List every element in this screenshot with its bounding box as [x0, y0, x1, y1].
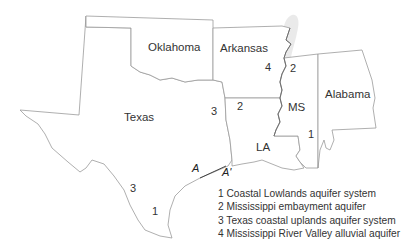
- aquifer-label-1-ms: 1: [308, 129, 314, 140]
- legend-item-4: 4 Mississippi River Valley alluvial aqui…: [218, 227, 400, 240]
- legend-item-3: 3 Texas coastal uplands aquifer system: [218, 214, 400, 227]
- section-label-a-prime: A': [222, 167, 231, 178]
- label-oklahoma: Oklahoma: [148, 42, 200, 54]
- aquifer-label-1-stx: 1: [152, 206, 158, 217]
- label-mississippi: MS: [288, 102, 305, 114]
- legend-item-2: 2 Mississippi embayment aquifer: [218, 200, 400, 213]
- aquifer-label-2-la: 2: [237, 101, 243, 112]
- aquifer-label-3-etx: 3: [211, 106, 217, 117]
- legend-item-1: 1 Coastal Lowlands aquifer system: [218, 187, 400, 200]
- aquifer-label-3-stx: 3: [130, 183, 136, 194]
- legend: 1 Coastal Lowlands aquifer system 2 Miss…: [218, 187, 400, 240]
- state-arkansas: [213, 26, 291, 98]
- aquifer-label-2-ms: 2: [290, 63, 296, 74]
- aquifer-label-4: 4: [265, 62, 271, 73]
- label-arkansas: Arkansas: [220, 43, 268, 55]
- section-label-a: A: [192, 163, 199, 174]
- label-texas: Texas: [124, 112, 154, 124]
- label-alabama: Alabama: [325, 89, 370, 101]
- label-louisiana: LA: [256, 142, 270, 154]
- state-alabama: [318, 50, 376, 168]
